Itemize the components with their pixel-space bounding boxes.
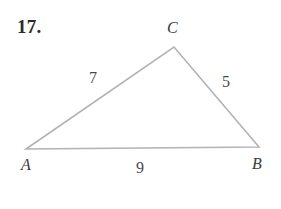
triangle-outline [26,47,259,149]
side-length-label-ab: 9 [136,160,144,176]
vertex-label-a: A [21,157,31,173]
problem-number: 17. [17,17,42,36]
triangle-figure [0,0,281,209]
side-length-label-bc: 5 [222,74,230,90]
figure-page: 17. A B C 7 5 9 [0,0,281,209]
side-length-label-ac: 7 [89,70,97,86]
vertex-label-b: B [252,156,262,172]
vertex-label-c: C [167,20,178,36]
